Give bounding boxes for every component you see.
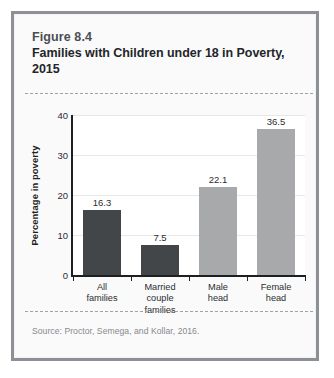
x-axis-tick-mark — [73, 275, 74, 281]
x-axis-tick-label: Allfamilies — [71, 282, 133, 305]
bar-group: 22.1 — [189, 115, 247, 275]
x-axis-tick-mark — [189, 275, 190, 281]
figure-frame: Figure 8.4 Families with Children under … — [11, 11, 319, 361]
divider-bottom — [25, 311, 313, 312]
x-axis-tick-label-line: couple — [129, 293, 191, 304]
x-axis-tick-mark — [131, 275, 132, 281]
bar: 7.5 — [141, 245, 179, 275]
divider-top — [25, 93, 313, 94]
y-axis-tick-label: 10 — [57, 230, 68, 241]
y-axis-tick-label: 0 — [63, 270, 68, 281]
bar: 22.1 — [199, 187, 237, 275]
y-axis-title-label: Percentage in poverty — [29, 145, 40, 245]
plot-area: 01020304016.3Allfamilies7.5Marriedcouple… — [71, 115, 305, 277]
bar-value-label: 7.5 — [153, 232, 166, 243]
bar: 36.5 — [257, 129, 295, 275]
x-axis-tick-mark — [247, 275, 248, 281]
figure-number: Figure 8.4 — [32, 30, 92, 44]
source-note: Source: Proctor, Semega, and Kollar, 201… — [32, 326, 199, 336]
bar-value-label: 36.5 — [267, 116, 286, 127]
x-axis-tick-label-line: Male — [187, 282, 249, 293]
y-axis-tick-label: 20 — [57, 190, 68, 201]
y-axis-tick-label: 30 — [57, 150, 68, 161]
x-axis-tick-label-line: families — [71, 293, 133, 304]
x-axis-tick-label: Malehead — [187, 282, 249, 305]
bar: 16.3 — [83, 210, 121, 275]
figure-title: Families with Children under 18 in Pover… — [32, 46, 302, 77]
figure-panel: Figure 8.4 Families with Children under … — [14, 14, 316, 358]
x-axis-tick-mark — [305, 275, 306, 281]
bar-value-label: 22.1 — [209, 174, 228, 185]
x-axis-tick-label: Femalehead — [245, 282, 307, 305]
x-axis-tick-label-line: head — [187, 293, 249, 304]
bar-group: 7.5 — [131, 115, 189, 275]
bar-chart: Percentage in poverty 01020304016.3Allfa… — [25, 103, 313, 303]
x-axis-tick-label-line: Female — [245, 282, 307, 293]
bar-group: 36.5 — [247, 115, 305, 275]
x-axis-tick-label-line: Married — [129, 282, 191, 293]
x-axis-tick-label-line: All — [71, 282, 133, 293]
x-axis-tick-label-line: head — [245, 293, 307, 304]
bar-value-label: 16.3 — [93, 197, 112, 208]
y-axis-title: Percentage in poverty — [27, 115, 41, 275]
bar-group: 16.3 — [73, 115, 131, 275]
y-axis-tick-label: 40 — [57, 110, 68, 121]
